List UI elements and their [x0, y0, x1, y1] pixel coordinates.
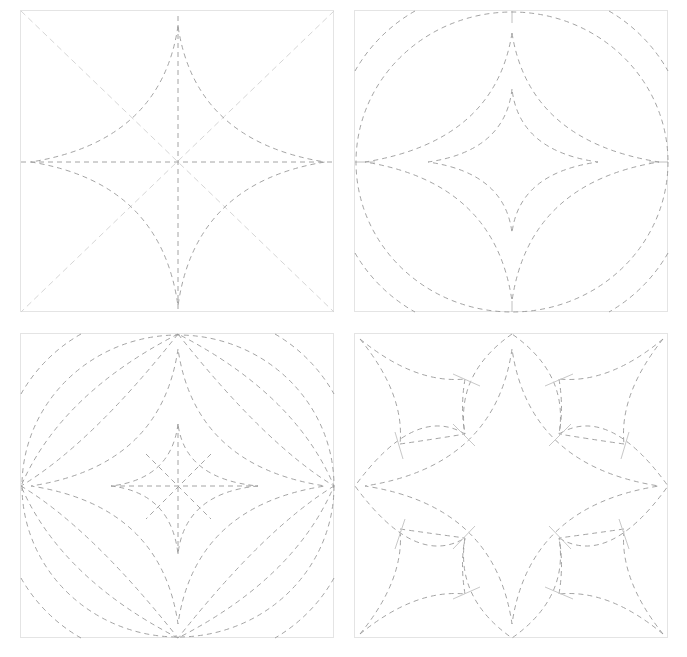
step-1-diagram [21, 11, 335, 313]
step-2-diagram [355, 11, 669, 313]
panel-step-4 [354, 333, 668, 638]
inner-concave-star [428, 89, 598, 233]
panel-step-2 [354, 10, 668, 312]
corner-arc [609, 11, 668, 71]
flower-outline [355, 334, 668, 638]
inner-concave-star [111, 424, 258, 554]
center-diagonals [146, 454, 211, 519]
panel-step-1 [20, 10, 334, 312]
corner-arc [609, 253, 668, 312]
tick-marks [395, 374, 629, 599]
step-3-diagram [21, 334, 335, 639]
step-4-diagram [355, 334, 669, 639]
inscribed-circle [356, 12, 668, 312]
concave-star [365, 349, 659, 624]
corner-arc [355, 11, 415, 71]
outer-concave-star [365, 33, 659, 301]
panel-step-3 [20, 333, 334, 638]
corner-arc [360, 339, 465, 444]
corner-arc [355, 253, 415, 312]
